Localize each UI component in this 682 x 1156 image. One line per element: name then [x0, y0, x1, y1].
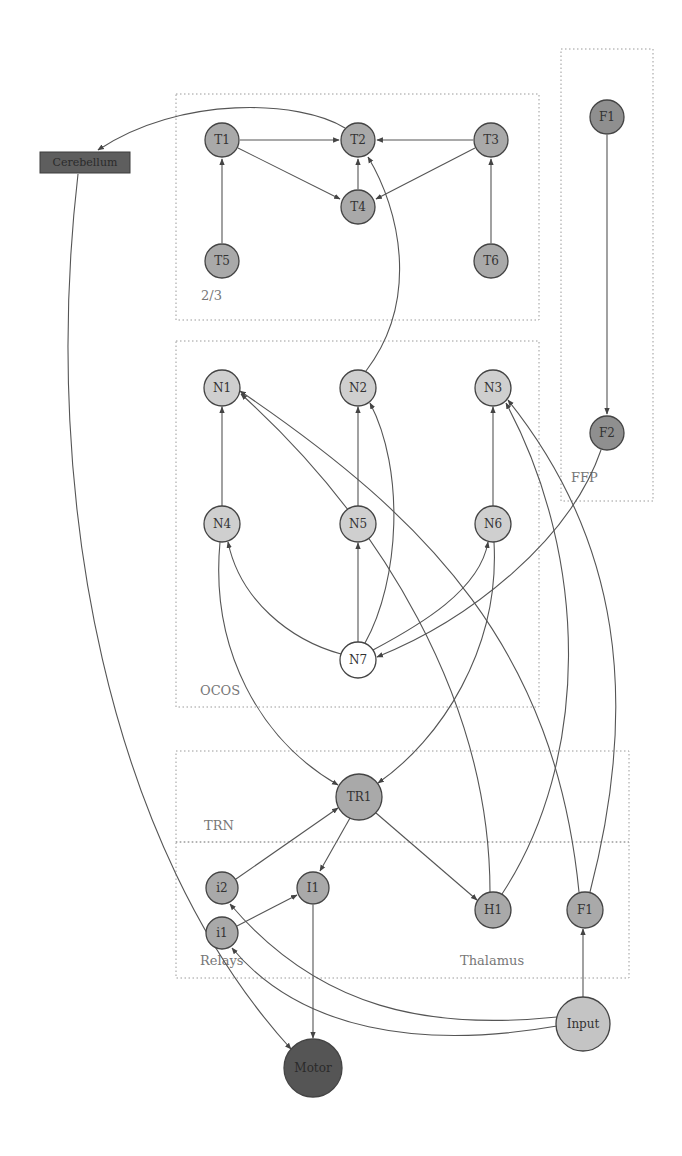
- node-t4[interactable]: T4: [341, 190, 375, 224]
- edge-f1thal-to-n3: [508, 400, 616, 892]
- group-label-ocos: OCOS: [200, 683, 240, 698]
- group-label-thalamus: Thalamus: [460, 953, 524, 968]
- node-label-n7: N7: [349, 653, 367, 667]
- node-label-f1top: F1: [599, 110, 615, 124]
- node-n7[interactable]: N7: [340, 642, 376, 678]
- edge-n4-to-tr1: [219, 542, 338, 785]
- group-box-thalamus: [176, 842, 629, 978]
- cerebellum-node[interactable]: Cerebellum: [40, 152, 130, 173]
- node-label-h1: H1: [484, 903, 502, 917]
- node-label-i1: I1: [307, 881, 319, 895]
- neural-circuit-diagram: 2/3FFPOCOSTRNThalamusRelays T1T2T3T4T5T6…: [0, 0, 682, 1156]
- node-n5[interactable]: N5: [340, 506, 376, 542]
- edge-t3-to-t4: [376, 148, 475, 199]
- node-label-n3: N3: [484, 381, 502, 395]
- node-t5[interactable]: T5: [205, 244, 239, 278]
- node-label-t4: T4: [350, 200, 366, 214]
- node-i1[interactable]: I1: [297, 872, 329, 904]
- node-n2[interactable]: N2: [340, 370, 376, 406]
- group-box-trn: [176, 751, 629, 842]
- node-label-n4: N4: [213, 517, 232, 531]
- node-n3[interactable]: N3: [475, 370, 511, 406]
- node-label-f2: F2: [599, 426, 615, 440]
- node-i2[interactable]: i2: [206, 872, 238, 904]
- node-motor[interactable]: Motor: [284, 1039, 342, 1097]
- edge-n7-to-n6: [373, 542, 488, 650]
- node-f1thal[interactable]: F1: [567, 892, 603, 928]
- group-label-trn: TRN: [204, 818, 234, 833]
- group-label-ffp: FFP: [571, 470, 598, 485]
- node-n6[interactable]: N6: [475, 506, 511, 542]
- node-label-t2: T2: [350, 133, 366, 147]
- groups-layer: 2/3FFPOCOSTRNThalamusRelays: [176, 49, 653, 978]
- node-label-n5: N5: [349, 517, 367, 531]
- node-label-tr1: TR1: [347, 790, 372, 804]
- edge-tr1-to-h1: [376, 813, 477, 900]
- node-input[interactable]: Input: [556, 997, 610, 1051]
- group-label-layer23: 2/3: [201, 288, 222, 303]
- node-tr1[interactable]: TR1: [336, 774, 382, 820]
- node-n4[interactable]: N4: [204, 506, 240, 542]
- edges-layer: [68, 108, 616, 1049]
- edge-i2-to-tr1: [236, 808, 338, 879]
- edge-tr1-to-i1: [320, 818, 350, 871]
- node-label-t3: T3: [483, 133, 499, 147]
- node-f2[interactable]: F2: [590, 416, 624, 450]
- group-label-relays_label: Relays: [200, 953, 243, 968]
- node-label-i2: i2: [216, 881, 227, 895]
- node-label-t6: T6: [483, 254, 499, 268]
- node-label-n1: N1: [213, 381, 231, 395]
- node-i1[interactable]: i1: [206, 917, 238, 949]
- node-label-f1thal: F1: [577, 903, 593, 917]
- node-t2[interactable]: T2: [341, 123, 375, 157]
- edge-n6-to-tr1: [378, 542, 494, 783]
- node-t3[interactable]: T3: [474, 123, 508, 157]
- cerebellum-label: Cerebellum: [53, 156, 118, 169]
- node-label-motor: Motor: [294, 1061, 332, 1075]
- edge-n7-to-n4: [228, 542, 341, 654]
- node-label-t5: T5: [214, 254, 230, 268]
- nodes-layer: T1T2T3T4T5T6F1F2N1N2N3N4N5N6N7TR1i2I1i1H…: [204, 100, 624, 1097]
- node-f1top[interactable]: F1: [590, 100, 624, 134]
- node-label-input: Input: [567, 1017, 600, 1031]
- edge-f1thal-to-n1: [240, 391, 579, 892]
- node-label-i1: i1: [216, 926, 227, 940]
- node-n1[interactable]: N1: [204, 370, 240, 406]
- node-t1[interactable]: T1: [205, 123, 239, 157]
- edge-cerebellum-to-motor: [68, 174, 291, 1049]
- node-h1[interactable]: H1: [475, 892, 511, 928]
- edge-t1-to-t4: [238, 148, 340, 199]
- node-label-n2: N2: [349, 381, 367, 395]
- node-label-t1: T1: [214, 133, 230, 147]
- node-t6[interactable]: T6: [474, 244, 508, 278]
- node-label-n6: N6: [484, 517, 502, 531]
